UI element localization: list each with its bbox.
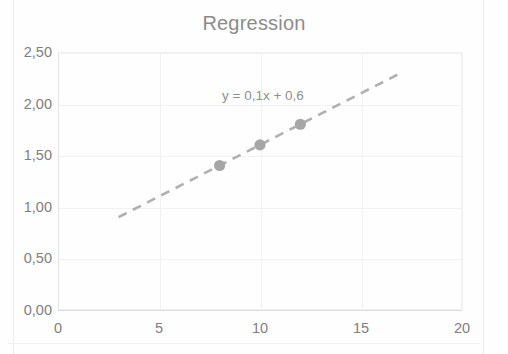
y-axis-tick-labels: 2,50 2,00 1,50 1,00 0,50 0,00: [0, 0, 52, 354]
x-axis-line: [58, 310, 462, 311]
y-axis-line: [58, 52, 59, 311]
gridline-horizontal: [59, 156, 461, 157]
gridline-vertical: [362, 53, 363, 309]
x-tick-label: 20: [442, 320, 482, 336]
x-tick-label: 0: [38, 320, 78, 336]
gridline-horizontal: [59, 259, 461, 260]
page-edge-right: [483, 0, 484, 354]
y-tick-label: 2,50: [4, 44, 52, 60]
chart-title: Regression: [0, 12, 508, 35]
page-edge-bottom: [8, 343, 480, 344]
y-tick-label: 0,50: [4, 250, 52, 266]
x-tick-label: 10: [240, 320, 280, 336]
gridline-vertical: [160, 53, 161, 309]
y-tick-label: 1,00: [4, 199, 52, 215]
x-tick-label: 15: [341, 320, 381, 336]
gridline-horizontal: [59, 105, 461, 106]
y-tick-label: 2,00: [4, 96, 52, 112]
trendline-equation-label: y = 0,1x + 0,6: [222, 88, 304, 103]
regression-chart: Regression 2,50 2,00 1,50 1,00 0,50 0,00…: [0, 0, 508, 354]
gridline-horizontal: [59, 208, 461, 209]
gridline-vertical: [462, 53, 463, 309]
x-tick-label: 5: [139, 320, 179, 336]
y-tick-label: 1,50: [4, 147, 52, 163]
gridline-horizontal: [59, 53, 461, 54]
y-tick-label: 0,00: [4, 302, 52, 318]
